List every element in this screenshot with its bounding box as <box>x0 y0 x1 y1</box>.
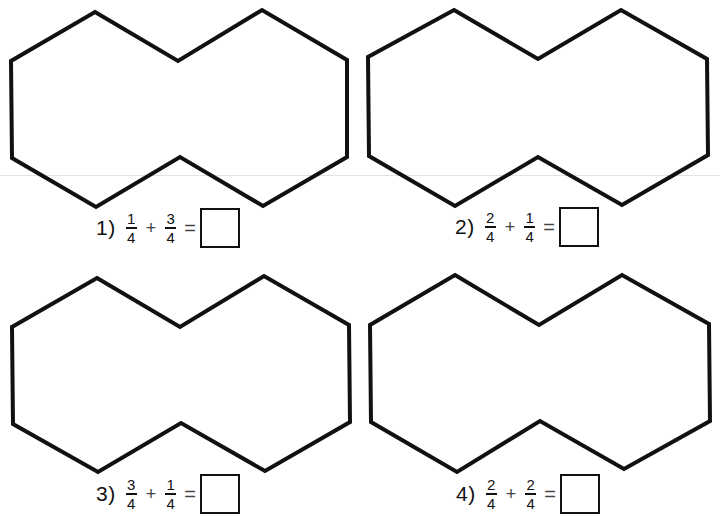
fraction-a: 2 4 <box>486 477 497 511</box>
double-hexagon-shape-1[interactable] <box>11 10 347 207</box>
problem-2: 2) 2 4 + 1 4 = <box>455 202 599 252</box>
fraction-a: 2 4 <box>485 210 496 244</box>
double-hexagon-shape-2[interactable] <box>368 10 708 206</box>
answer-box-4[interactable] <box>560 474 600 514</box>
answer-box-3[interactable] <box>200 474 240 514</box>
denominator: 4 <box>167 230 175 245</box>
problem-number: 3) <box>96 482 116 506</box>
problem-1: 1) 1 4 + 3 4 = <box>96 203 240 253</box>
fraction-b: 1 4 <box>165 477 176 511</box>
double-hexagon-shape-4[interactable] <box>370 275 710 472</box>
problem-number: 2) <box>455 215 475 239</box>
fraction-a: 1 4 <box>126 211 137 245</box>
equals-sign: = <box>544 483 556 506</box>
plus-sign: + <box>146 484 157 505</box>
fraction-b: 1 4 <box>524 210 535 244</box>
numerator: 1 <box>167 477 175 492</box>
denominator: 4 <box>127 230 135 245</box>
numerator: 3 <box>167 211 175 226</box>
problem-number: 1) <box>96 216 116 240</box>
answer-box-1[interactable] <box>200 208 240 248</box>
numerator: 2 <box>487 477 495 492</box>
equals-sign: = <box>543 216 555 239</box>
answer-box-2[interactable] <box>559 207 599 247</box>
equals-sign: = <box>184 217 196 240</box>
double-hexagon-shape-3[interactable] <box>12 276 350 472</box>
denominator: 4 <box>167 496 175 511</box>
problem-number: 4) <box>456 482 476 506</box>
numerator: 2 <box>486 210 494 225</box>
shapes-canvas <box>0 0 720 524</box>
denominator: 4 <box>486 229 494 244</box>
denominator: 4 <box>127 496 135 511</box>
numerator: 1 <box>127 211 135 226</box>
numerator: 3 <box>127 477 135 492</box>
fraction-b: 2 4 <box>525 477 536 511</box>
denominator: 4 <box>487 496 495 511</box>
equals-sign: = <box>184 483 196 506</box>
fraction-a: 3 4 <box>126 477 137 511</box>
plus-sign: + <box>506 484 517 505</box>
denominator: 4 <box>526 229 534 244</box>
problem-4: 4) 2 4 + 2 4 = <box>456 469 600 519</box>
plus-sign: + <box>146 218 157 239</box>
numerator: 2 <box>527 477 535 492</box>
numerator: 1 <box>526 210 534 225</box>
problem-3: 3) 3 4 + 1 4 = <box>96 469 240 519</box>
plus-sign: + <box>505 217 516 238</box>
fraction-b: 3 4 <box>165 211 176 245</box>
denominator: 4 <box>527 496 535 511</box>
